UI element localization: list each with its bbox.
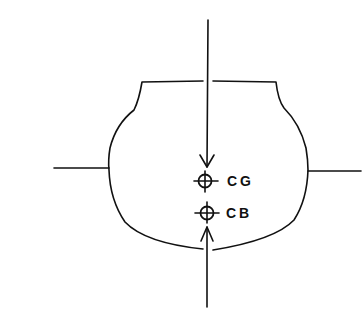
cb-marker-icon <box>195 202 219 223</box>
hull-stability-diagram: CG CB <box>0 0 363 320</box>
hull-outline-left <box>109 81 203 249</box>
cb-label: CB <box>226 206 252 220</box>
diagram-graphics <box>0 0 363 320</box>
hull-outline-right <box>213 81 308 250</box>
cg-marker-icon <box>194 171 218 192</box>
gravity-arrow-shaft <box>207 20 208 167</box>
cg-label: CG <box>227 174 254 188</box>
